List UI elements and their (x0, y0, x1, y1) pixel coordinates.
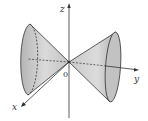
double-cone-diagram: z y x 0 (0, 0, 148, 121)
y-axis-label: y (133, 74, 140, 84)
z-axis-label: z (59, 4, 65, 14)
origin-point (68, 61, 70, 63)
x-axis-label: x (12, 102, 17, 112)
origin-label: 0 (63, 70, 68, 79)
